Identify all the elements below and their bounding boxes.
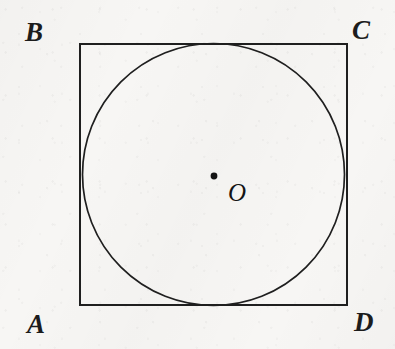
vertex-label-b: B xyxy=(25,19,43,46)
figure-canvas xyxy=(0,0,395,349)
center-point-label: O xyxy=(228,180,246,205)
vertex-label-c: C xyxy=(352,17,370,44)
vertex-label-a: A xyxy=(27,311,45,338)
geometry-figure: B C A D O xyxy=(0,0,395,349)
center-point-dot xyxy=(211,173,218,180)
vertex-label-d: D xyxy=(354,309,374,336)
